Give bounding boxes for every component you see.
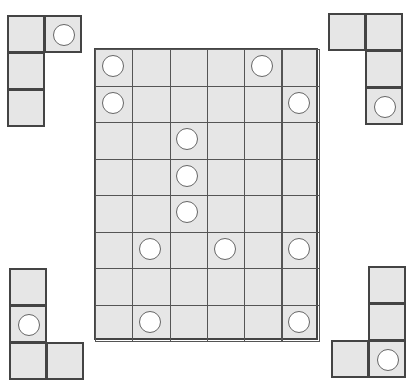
circle-marker	[214, 238, 236, 260]
grid-cell[interactable]	[282, 122, 320, 160]
piece-cell	[365, 50, 403, 88]
piece-cell	[7, 15, 45, 53]
circle-marker	[139, 238, 161, 260]
circle-marker	[288, 92, 310, 114]
grid-cell[interactable]	[170, 86, 208, 124]
circle-marker	[377, 349, 399, 371]
piece-cell	[9, 268, 47, 306]
grid-cell[interactable]	[244, 195, 282, 233]
grid-cell[interactable]	[207, 49, 245, 87]
piece-cell	[9, 342, 47, 380]
piece-bottom-left[interactable]	[9, 268, 85, 381]
grid-cell[interactable]	[207, 86, 245, 124]
grid-cell[interactable]	[282, 195, 320, 233]
grid-cell[interactable]	[244, 122, 282, 160]
circle-marker	[139, 311, 161, 333]
circle-marker	[251, 55, 273, 77]
grid-cell[interactable]	[207, 159, 245, 197]
grid-cell[interactable]	[132, 195, 170, 233]
main-grid	[94, 48, 318, 340]
circle-marker	[374, 96, 396, 118]
grid-cell[interactable]	[244, 305, 282, 343]
grid-cell[interactable]	[95, 195, 133, 233]
grid-cell[interactable]	[244, 268, 282, 306]
grid-cell[interactable]	[132, 49, 170, 87]
piece-cell	[7, 89, 45, 127]
grid-cell[interactable]	[207, 268, 245, 306]
piece-bottom-right[interactable]	[331, 266, 407, 379]
grid-cell[interactable]	[95, 268, 133, 306]
piece-cell	[7, 52, 45, 90]
grid-cell[interactable]	[282, 268, 320, 306]
grid-cell[interactable]	[132, 122, 170, 160]
grid-cell[interactable]	[282, 49, 320, 87]
grid-cell[interactable]	[207, 122, 245, 160]
grid-cell[interactable]	[244, 232, 282, 270]
grid-cell[interactable]	[282, 159, 320, 197]
grid-cell[interactable]	[132, 86, 170, 124]
piece-cell	[331, 340, 369, 378]
piece-top-right[interactable]	[328, 13, 404, 126]
circle-marker	[288, 311, 310, 333]
grid-cell[interactable]	[95, 305, 133, 343]
circle-marker	[102, 55, 124, 77]
piece-cell	[368, 303, 406, 341]
grid-cell[interactable]	[170, 49, 208, 87]
grid-cell[interactable]	[207, 305, 245, 343]
circle-marker	[18, 314, 40, 336]
grid-cell[interactable]	[132, 268, 170, 306]
grid-cell[interactable]	[207, 195, 245, 233]
grid-cell[interactable]	[244, 159, 282, 197]
circle-marker	[288, 238, 310, 260]
piece-cell	[365, 13, 403, 51]
piece-top-left[interactable]	[7, 15, 83, 128]
grid-cell[interactable]	[170, 232, 208, 270]
circle-marker	[53, 24, 75, 46]
grid-cell[interactable]	[170, 268, 208, 306]
grid-cell[interactable]	[95, 159, 133, 197]
piece-cell	[368, 266, 406, 304]
grid-cell[interactable]	[95, 232, 133, 270]
grid-cell[interactable]	[132, 159, 170, 197]
circle-marker	[176, 165, 198, 187]
circle-marker	[102, 92, 124, 114]
piece-cell	[46, 342, 84, 380]
grid-cell[interactable]	[244, 86, 282, 124]
grid-cell[interactable]	[95, 122, 133, 160]
grid-cell[interactable]	[170, 305, 208, 343]
piece-cell	[328, 13, 366, 51]
